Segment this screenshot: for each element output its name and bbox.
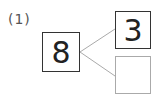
whole-number: 8: [51, 35, 70, 70]
part-top-number: 3: [123, 13, 142, 48]
whole-number-box: 8: [42, 32, 80, 72]
answer-box[interactable]: [115, 56, 151, 94]
part-top-box: 3: [115, 11, 151, 49]
